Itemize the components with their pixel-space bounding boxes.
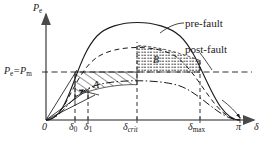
power-angle-diagram: Pe Pe=Pm pre-fault post-fault A B 0 δ0 δ… (0, 0, 274, 142)
delta-crit-subscript: crit (128, 126, 138, 134)
tick-label-delta-0: δ0 (69, 122, 77, 134)
area-a-label: A (93, 80, 99, 90)
area-a-shading (75, 72, 137, 97)
pm-subscript: m (26, 70, 32, 78)
mechanical-power-label: Pe=Pm (4, 66, 32, 78)
post-fault-leader (200, 53, 212, 70)
delta-1-subscript: 1 (89, 126, 93, 134)
tick-label-pi: π (236, 122, 241, 132)
post-fault-label: post-fault (185, 44, 227, 55)
delta-max-subscript: max (193, 126, 205, 134)
pre-fault-label: pre-fault (185, 18, 223, 29)
y-axis-label: Pe (33, 3, 42, 15)
y-axis-label-sub: e (39, 7, 42, 15)
x-axis-label: δ (254, 122, 259, 132)
pre-fault-leader (160, 23, 184, 33)
area-b-label: B (153, 55, 159, 65)
equals-p: =P (13, 65, 26, 76)
origin-label: 0 (42, 122, 47, 132)
tick-label-delta-1: δ1 (84, 122, 92, 134)
trajectory-to-delta1 (46, 88, 90, 120)
tick-label-delta-max: δmax (188, 122, 205, 134)
delta-0-subscript: 0 (74, 126, 78, 134)
tick-label-delta-crit: δcrit (123, 122, 138, 134)
